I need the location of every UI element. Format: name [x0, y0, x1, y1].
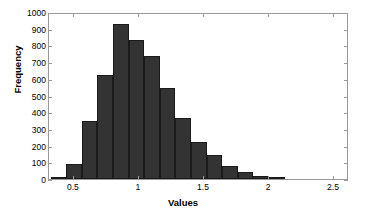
- y-tick-mark: [344, 13, 348, 14]
- histogram-bars: [49, 14, 347, 179]
- y-tick-mark: [48, 130, 52, 131]
- x-tick-mark: [268, 13, 269, 17]
- y-tick-mark: [344, 113, 348, 114]
- y-tick-mark: [344, 63, 348, 64]
- y-tick-label: 100: [6, 159, 46, 168]
- x-tick-mark: [203, 176, 204, 180]
- x-axis-label: Values: [0, 197, 366, 208]
- histogram-bar: [51, 177, 67, 179]
- x-tick-mark: [203, 13, 204, 17]
- histogram-bar: [175, 118, 191, 179]
- y-tick-mark: [48, 180, 52, 181]
- x-tick-mark: [73, 13, 74, 17]
- y-tick-mark: [344, 30, 348, 31]
- x-tick-mark: [138, 176, 139, 180]
- histogram-bar: [253, 176, 269, 179]
- y-tick-mark: [344, 80, 348, 81]
- histogram-bar: [222, 166, 238, 179]
- y-axis-label: Frequency: [12, 20, 23, 120]
- y-tick-mark: [48, 46, 52, 47]
- y-tick-mark: [48, 113, 52, 114]
- y-tick-mark: [344, 130, 348, 131]
- histogram-figure: 01002003004005006007008009001000 0.511.5…: [0, 0, 366, 215]
- histogram-bar: [66, 164, 82, 179]
- x-tick-mark: [138, 13, 139, 17]
- y-tick-mark: [48, 163, 52, 164]
- y-tick-mark: [48, 147, 52, 148]
- histogram-bar: [238, 172, 254, 180]
- histogram-bar: [269, 177, 285, 179]
- histogram-bar: [97, 75, 113, 179]
- histogram-bar: [191, 142, 207, 179]
- y-tick-label: 200: [6, 143, 46, 152]
- histogram-bar: [160, 88, 176, 179]
- histogram-bar: [144, 56, 160, 179]
- y-tick-mark: [344, 97, 348, 98]
- y-tick-mark: [344, 46, 348, 47]
- x-tick-label: 1: [118, 183, 158, 192]
- y-tick-mark: [344, 163, 348, 164]
- x-tick-label: 2: [248, 183, 288, 192]
- y-tick-mark: [344, 147, 348, 148]
- y-tick-mark: [48, 13, 52, 14]
- x-tick-mark: [268, 176, 269, 180]
- y-tick-mark: [48, 30, 52, 31]
- y-tick-mark: [48, 97, 52, 98]
- histogram-bar: [129, 40, 145, 179]
- histogram-bar: [82, 121, 98, 179]
- x-tick-label: 2.5: [313, 183, 353, 192]
- x-tick-mark: [73, 176, 74, 180]
- y-tick-label: 300: [6, 126, 46, 135]
- x-tick-label: 0.5: [53, 183, 93, 192]
- x-tick-mark: [333, 13, 334, 17]
- plot-area: [48, 13, 348, 180]
- y-tick-mark: [48, 63, 52, 64]
- histogram-bar: [207, 155, 223, 179]
- y-tick-mark: [344, 180, 348, 181]
- y-tick-label: 1000: [6, 9, 46, 18]
- x-tick-mark: [333, 176, 334, 180]
- y-tick-label: 0: [6, 176, 46, 185]
- y-tick-mark: [48, 80, 52, 81]
- histogram-bar: [113, 24, 129, 179]
- x-tick-label: 1.5: [183, 183, 223, 192]
